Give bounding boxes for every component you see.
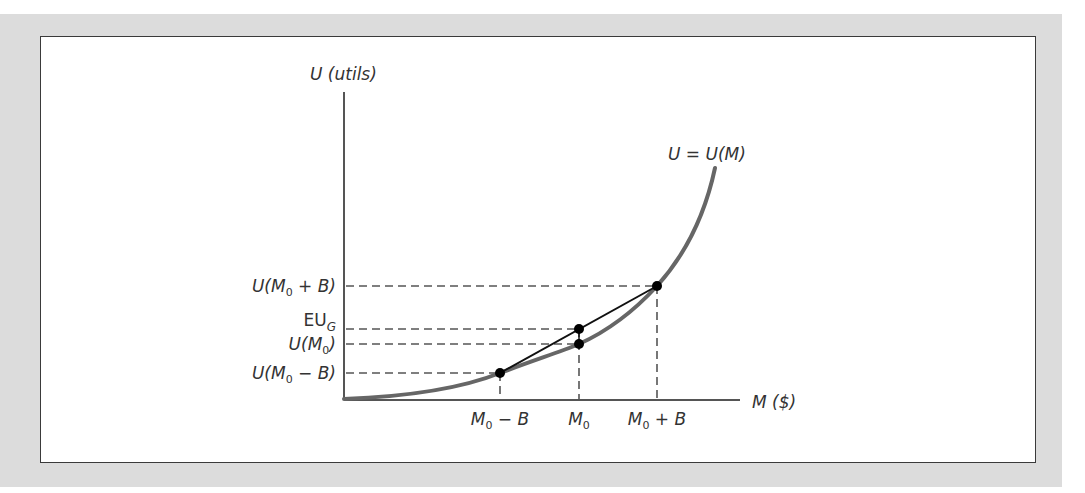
y-tick-u-m0-plus-b: U(M0 + B) [252, 276, 336, 299]
curve-label: U = U(M) [668, 144, 746, 164]
x-axis-label: M ($) [752, 392, 796, 412]
x-tick-m0: M0 [568, 409, 590, 432]
point-low [495, 368, 505, 378]
dashed-guides [346, 286, 657, 400]
y-tick-u-m0-minus-b: U(M0 − B) [252, 363, 336, 386]
utility-diagram: U (utils) M ($) U = U(M) U(M0 + B) EUG U… [0, 0, 1085, 493]
y-tick-u-m0: U(M0) [289, 334, 336, 357]
point-u-m0 [574, 339, 584, 349]
x-tick-m0-minus-b: M0 − B [471, 409, 529, 432]
point-high [652, 281, 662, 291]
y-axis-label: U (utils) [310, 64, 377, 84]
x-tick-m0-plus-b: M0 + B [628, 409, 686, 432]
y-tick-eu-g: EUG [304, 310, 337, 334]
point-eu [574, 324, 584, 334]
